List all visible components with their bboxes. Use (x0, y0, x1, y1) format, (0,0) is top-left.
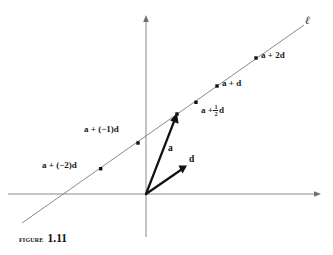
figure-container: ℓ a + (−2)d a + (−1)d a +12d a + d a + 2… (0, 0, 333, 255)
point-label-a-minus-1d: a + (−1)d (84, 125, 119, 134)
figure-caption-word: Figure (19, 234, 44, 244)
fraction-prefix: a + (201, 105, 213, 115)
figure-graphic (0, 0, 333, 255)
one-half-fraction: 12 (213, 104, 218, 118)
point-a (175, 112, 178, 115)
figure-caption-number: 1.11 (48, 232, 68, 244)
point-a-minus-1d (136, 141, 139, 144)
point-label-a-plus-d: a + d (222, 79, 241, 88)
vector-label-d: d (189, 155, 194, 165)
point-a-plus-half-d (194, 101, 197, 104)
figure-caption: Figure 1.11 (19, 232, 67, 244)
point-label-a-plus-2d: a + 2d (261, 51, 285, 60)
line-points (99, 56, 258, 170)
point-a-plus-2d (254, 56, 257, 59)
fraction-suffix: d (219, 105, 224, 115)
point-label-a-plus-half-d: a +12d (201, 104, 224, 118)
fraction-denominator: 2 (213, 110, 218, 118)
point-a-minus-2d (99, 167, 102, 170)
y-axis (143, 15, 149, 237)
line-label-ell: ℓ (305, 15, 310, 26)
point-a-plus-d (215, 84, 218, 87)
vector-label-a: a (168, 144, 173, 154)
x-axis (8, 191, 321, 197)
point-label-a-minus-2d: a + (−2)d (42, 161, 77, 170)
